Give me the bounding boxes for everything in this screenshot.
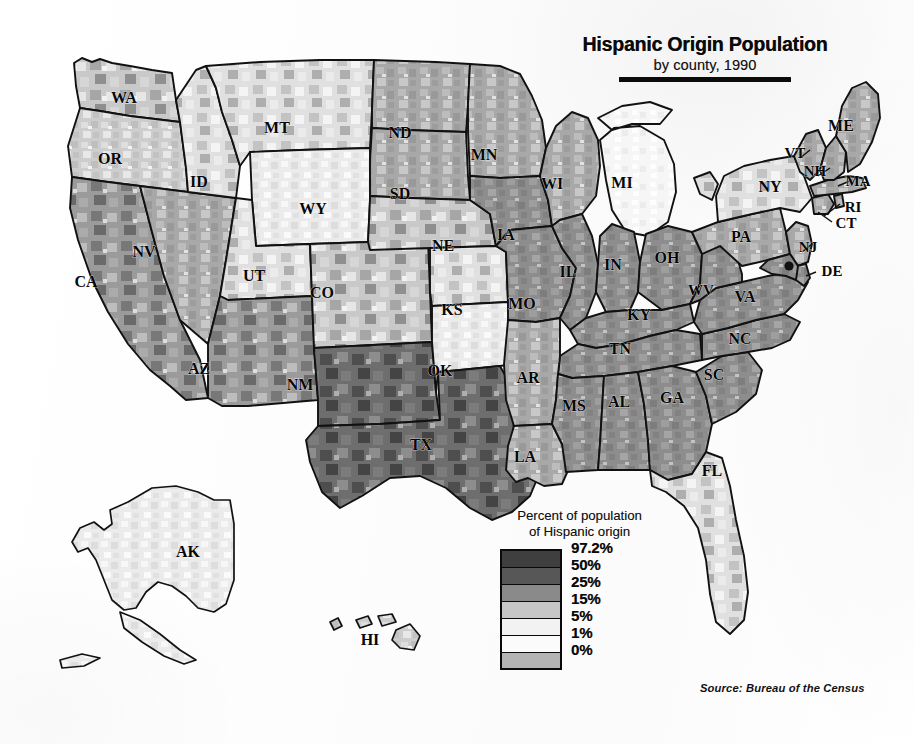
state-label-UT: UT <box>243 267 266 284</box>
title-block: Hispanic Origin Population by county, 19… <box>505 34 905 82</box>
legend-swatch-0 <box>502 551 560 566</box>
legend-label-3: 15% <box>571 590 681 607</box>
legend-label-5: 1% <box>571 624 681 641</box>
dc-dot-marker <box>784 261 793 270</box>
state-label-WA: WA <box>111 89 137 106</box>
state-label-IN: IN <box>604 256 622 273</box>
page-subtitle: by county, 1990 <box>505 57 905 73</box>
state-label-ND: ND <box>388 124 411 141</box>
state-label-NM: NM <box>287 376 314 393</box>
state-label-FL: FL <box>702 462 722 479</box>
legend-label-4: 5% <box>571 607 681 624</box>
state-label-MT: MT <box>264 119 290 136</box>
state-label-TX: TX <box>410 436 433 453</box>
state-label-NY: NY <box>758 178 782 195</box>
inset-shape-AK <box>60 486 234 668</box>
state-label-GA: GA <box>660 389 684 406</box>
state-label-TN: TN <box>609 340 632 357</box>
state-shape-MI <box>598 102 676 236</box>
state-label-HI: HI <box>361 631 380 648</box>
state-label-NC: NC <box>728 330 751 347</box>
legend-label-0: 97.2% <box>571 539 681 556</box>
state-label-WV: WV <box>688 282 714 298</box>
state-label-AL: AL <box>608 393 630 410</box>
legend-swatch-3 <box>502 602 560 617</box>
state-shape-ND <box>372 60 470 132</box>
state-label-PA: PA <box>731 228 752 245</box>
legend-body: 97.2%50%25%15%5%1%0% <box>472 547 687 675</box>
legend-swatch-6 <box>502 653 560 668</box>
state-label-ID: ID <box>190 173 208 190</box>
legend-label-column: 97.2%50%25%15%5%1%0% <box>571 539 681 658</box>
state-label-SD: SD <box>390 185 410 202</box>
state-shape-NY <box>694 156 812 222</box>
state-label-ME: ME <box>828 117 854 134</box>
state-label-IA: IA <box>497 226 515 243</box>
title-underline-rule <box>619 77 791 82</box>
legend-swatch-5 <box>502 636 560 651</box>
state-label-MS: MS <box>562 397 586 414</box>
state-label-WY: WY <box>299 200 327 217</box>
legend-caption-line-1: Percent of population <box>472 508 687 524</box>
state-label-NH: NH <box>804 163 827 179</box>
state-shape-NM <box>314 342 440 426</box>
state-label-MN: MN <box>471 146 498 163</box>
page-title: Hispanic Origin Population <box>505 34 905 54</box>
state-label-NJ: NJ <box>799 239 818 255</box>
state-label-LA: LA <box>514 448 537 465</box>
state-label-CT: CT <box>836 215 857 231</box>
state-label-AR: AR <box>516 369 540 386</box>
state-shape-WI <box>540 112 600 226</box>
legend-label-2: 25% <box>571 573 681 590</box>
source-note: Source: Bureau of the Census <box>700 682 865 694</box>
state-label-DE: DE <box>822 263 843 279</box>
state-shape-RI <box>834 194 844 208</box>
state-label-AZ: AZ <box>188 360 210 377</box>
state-label-MA: MA <box>846 173 871 189</box>
state-shape-WY <box>250 148 370 246</box>
legend-swatch-column <box>500 549 562 670</box>
legend-label-1: 50% <box>571 556 681 573</box>
state-label-CA: CA <box>74 273 98 290</box>
state-label-NE: NE <box>432 237 454 254</box>
legend-swatch-4 <box>502 619 560 634</box>
state-label-KY: KY <box>627 306 651 323</box>
state-shape-SD <box>370 128 470 200</box>
state-label-RI: RI <box>845 199 862 215</box>
legend-swatch-2 <box>502 585 560 600</box>
state-label-VA: VA <box>734 288 755 305</box>
state-label-SC: SC <box>704 366 724 383</box>
state-label-MI: MI <box>611 174 632 191</box>
legend-label-6: 0% <box>571 641 681 658</box>
state-label-MO: MO <box>508 295 536 312</box>
state-label-OR: OR <box>98 150 122 167</box>
state-label-CO: CO <box>310 284 334 301</box>
state-label-OK: OK <box>428 362 453 379</box>
legend-swatch-1 <box>502 568 560 583</box>
legend-caption: Percent of population of Hispanic origin <box>472 508 687 540</box>
state-label-KS: KS <box>441 301 462 318</box>
legend-caption-line-2: of Hispanic origin <box>472 524 687 540</box>
map-legend: Percent of population of Hispanic origin… <box>472 508 687 675</box>
state-label-AK: AK <box>176 543 201 560</box>
choropleth-map: WA OR CA NV ID MT WY UT AZ CO NM ND SD N… <box>0 0 914 744</box>
state-shape-KS <box>430 246 508 306</box>
state-label-IL: IL <box>560 263 577 280</box>
state-label-OH: OH <box>655 249 680 266</box>
state-label-VT: VT <box>785 145 806 161</box>
state-label-WI: WI <box>541 175 563 192</box>
state-label-NV: NV <box>132 243 156 260</box>
